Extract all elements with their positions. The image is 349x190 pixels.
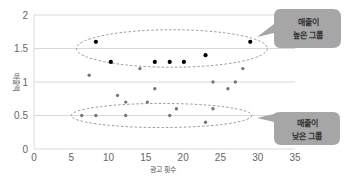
data-point-other [87,74,90,77]
callout-high-line1: 매출이 [298,17,319,27]
gridlines [34,15,295,116]
x-tick-label: 0 [31,152,37,163]
data-point-other [241,67,244,70]
x-tick-label: 15 [140,152,152,163]
x-tick-label: 25 [215,152,227,163]
scatter-chart: 00.511.5205101520253035 광고 횟수 매출액 매출이 높은… [0,0,349,190]
data-point-other [94,114,97,117]
data-point-other [234,80,237,83]
axes: 00.511.5205101520253035 [14,10,301,164]
data-point-high [168,60,172,64]
data-point-other [124,114,127,117]
data-point-high [203,53,207,57]
data-point-other [211,80,214,83]
y-tick-label: 2 [22,10,28,21]
data-point-other [146,100,149,103]
data-point-high [182,60,186,64]
x-tick-label: 30 [252,152,264,163]
x-tick-label: 20 [178,152,190,163]
callout-high-line2: 높은 그룹 [293,30,325,40]
callout-low-line2: 낮은 그룹 [292,131,324,141]
y-tick-label: 1 [22,77,28,88]
data-point-other [138,67,141,70]
x-tick-label: 10 [103,152,115,163]
group-ellipses [71,30,267,128]
data-point-other [124,100,127,103]
data-point-other [211,107,214,110]
data-point-other [153,87,156,90]
callout-low-group: 매출이 낮은 그룹 [257,112,340,145]
data-point-other [204,121,207,124]
x-tick-label: 5 [69,152,75,163]
data-point-other [80,114,83,117]
data-point-high [109,60,113,64]
x-axis-title: 광고 횟수 [150,165,177,174]
callout-low-line1: 매출이 [297,118,318,128]
y-tick-label: 0 [22,144,28,155]
data-point-other [175,107,178,110]
data-point-other [168,114,171,117]
data-point-high [94,40,98,44]
y-tick-label: 1.5 [14,43,28,54]
y-tick-label: 0.5 [14,110,28,121]
data-point-other [116,94,119,97]
y-axis-title: 매출액 [12,73,21,91]
data-point-other [226,87,229,90]
data-point-high [153,60,157,64]
x-tick-label: 35 [289,152,301,163]
data-point-high [248,40,252,44]
